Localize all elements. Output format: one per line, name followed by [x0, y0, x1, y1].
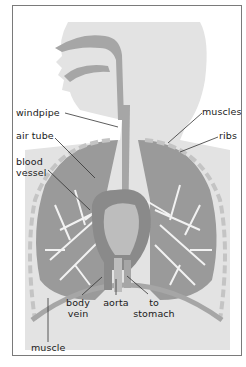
label-to: to	[132, 297, 176, 308]
label-body: body	[62, 297, 94, 308]
label-blood: blood	[16, 156, 43, 167]
label-muscle: muscle	[31, 342, 66, 353]
label-stomach: stomach	[132, 308, 176, 319]
label-air-tube: air tube	[16, 130, 54, 141]
respiratory-system-illustration	[0, 0, 246, 367]
label-vessel: vessel	[16, 167, 46, 178]
label-ribs: ribs	[219, 130, 237, 141]
label-vein: vein	[62, 308, 94, 319]
label-muscles: muscles	[202, 106, 242, 117]
label-windpipe: windpipe	[16, 107, 60, 118]
label-aorta: aorta	[100, 297, 132, 308]
